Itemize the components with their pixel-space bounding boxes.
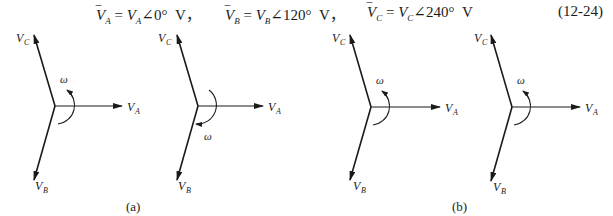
svg-text:B: B [501, 187, 506, 196]
svg-text:A: A [452, 108, 458, 117]
labels-a1: VC VA VB ω [16, 31, 140, 195]
phasor-diagram-b2 [491, 35, 580, 181]
phasor-diagram-a2 [177, 35, 263, 180]
svg-text:B: B [43, 186, 48, 195]
svg-text:A: A [134, 107, 140, 116]
svg-text:B: B [361, 186, 366, 195]
svg-text:C: C [340, 38, 346, 47]
svg-text:C: C [166, 38, 172, 47]
caption-a: (a) [126, 199, 140, 215]
svg-text:A: A [275, 107, 281, 116]
labels-b1: VC VA VB ω [332, 31, 458, 195]
svg-text:C: C [482, 38, 488, 47]
omega-rotation-arrow-cw [196, 90, 216, 124]
omega-rotation-arrow-ccw [58, 90, 75, 124]
svg-text:B: B [186, 186, 191, 195]
phasor-vc-arrow [34, 35, 55, 106]
svg-text:ω: ω [204, 130, 212, 142]
svg-text:C: C [24, 38, 30, 47]
phasor-diagrams: VC VA VB ω VC VA VB ω VC VA VB ω VC VA [0, 0, 613, 216]
phasor-diagram-a1 [34, 35, 122, 180]
labels-a2: VC VA VB ω [158, 31, 281, 195]
svg-text:ω: ω [376, 74, 384, 86]
svg-text:ω: ω [517, 74, 525, 86]
phasor-diagram-b1 [350, 35, 440, 180]
phasor-vb-arrow [34, 106, 55, 180]
svg-text:ω: ω [60, 73, 68, 85]
labels-b2: VC VA VB ω [474, 31, 598, 196]
svg-text:A: A [592, 108, 598, 117]
caption-b: (b) [452, 199, 467, 215]
